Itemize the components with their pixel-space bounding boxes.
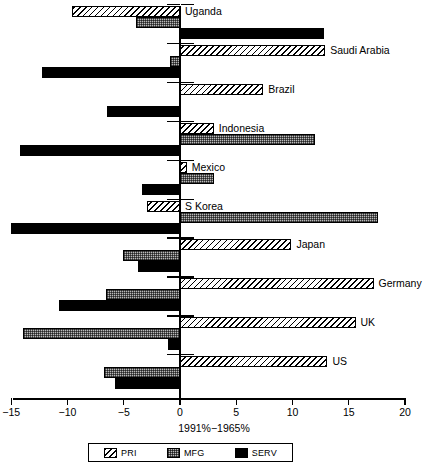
bar-pri-japan <box>180 239 291 250</box>
x-tick-label: −5 <box>104 406 144 418</box>
group-tick <box>181 43 194 44</box>
x-tick-label: 0 <box>160 406 200 418</box>
group-tick <box>167 43 180 44</box>
legend-swatch-serv-icon <box>235 448 248 458</box>
bar-mfg-us <box>104 367 181 378</box>
group-tick <box>181 82 194 83</box>
group-tick <box>167 237 180 238</box>
bar-pri-s-korea <box>147 201 180 212</box>
bar-pri-saudi-arabia <box>180 45 325 56</box>
legend-item-pri: PRI <box>104 448 137 458</box>
category-label-us: US <box>332 356 347 367</box>
chart-legend: PRI MFG SERV <box>88 443 293 462</box>
group-tick <box>167 199 180 200</box>
x-tick <box>67 398 68 405</box>
x-tick <box>348 398 349 405</box>
group-tick <box>167 160 180 161</box>
group-tick <box>167 276 180 277</box>
category-label-mexico: Mexico <box>192 162 225 173</box>
bar-serv-uk <box>168 339 180 350</box>
bar-mfg-mexico <box>180 173 214 184</box>
bar-mfg-saudi-arabia <box>170 56 180 67</box>
category-label-uk: UK <box>361 317 376 328</box>
bar-serv-mexico <box>142 184 180 195</box>
group-tick <box>181 276 194 277</box>
legend-label-serv: SERV <box>252 448 277 458</box>
group-tick <box>181 354 194 355</box>
group-tick <box>167 315 180 316</box>
group-tick <box>181 315 194 316</box>
category-label-indonesia: Indonesia <box>219 123 265 134</box>
bar-pri-uk <box>180 317 356 328</box>
category-label-germany: Germany <box>379 278 422 289</box>
category-label-japan: Japan <box>296 239 325 250</box>
bar-mfg-germany <box>106 289 180 300</box>
bar-serv-uganda <box>180 28 324 39</box>
category-label-uganda: Uganda <box>185 6 222 17</box>
bar-serv-japan <box>138 261 180 272</box>
bar-mfg-uk <box>23 328 181 339</box>
x-tick-label: 20 <box>385 406 425 418</box>
x-tick <box>236 398 237 405</box>
bar-pri-uganda <box>72 6 180 17</box>
legend-swatch-pri-icon <box>104 448 117 458</box>
x-tick-label: −15 <box>0 406 31 418</box>
horizontal-bar-chart: UgandaSaudi ArabiaBrazilIndonesiaMexicoS… <box>0 0 428 466</box>
bar-pri-mexico <box>180 162 187 173</box>
legend-label-pri: PRI <box>121 448 137 458</box>
category-label-s-korea: S Korea <box>185 201 223 212</box>
x-axis-label: 1991%−1965% <box>0 422 428 434</box>
x-axis-line <box>13 398 405 400</box>
category-label-brazil: Brazil <box>268 84 294 95</box>
x-tick-label: 10 <box>273 406 313 418</box>
legend-label-mfg: MFG <box>184 448 205 458</box>
bar-pri-indonesia <box>180 123 214 134</box>
group-tick <box>181 121 194 122</box>
bar-serv-s-korea <box>11 223 180 234</box>
x-tick <box>292 398 293 405</box>
bar-serv-indonesia <box>20 145 180 156</box>
bar-mfg-uganda <box>136 17 180 28</box>
plot-area: UgandaSaudi ArabiaBrazilIndonesiaMexicoS… <box>0 0 428 398</box>
bar-serv-saudi-arabia <box>42 67 180 78</box>
category-label-saudi-arabia: Saudi Arabia <box>330 45 390 56</box>
bar-mfg-s-korea <box>180 212 378 223</box>
x-tick-label: 5 <box>216 406 256 418</box>
bar-mfg-indonesia <box>180 134 315 145</box>
bar-serv-germany <box>59 300 181 311</box>
x-tick <box>11 398 12 405</box>
bar-serv-brazil <box>107 106 180 117</box>
group-tick <box>167 4 180 5</box>
group-tick <box>167 121 180 122</box>
legend-item-serv: SERV <box>235 448 277 458</box>
bar-serv-us <box>115 378 180 389</box>
bar-pri-brazil <box>180 84 263 95</box>
bar-pri-germany <box>180 278 374 289</box>
x-tick <box>404 398 405 405</box>
x-tick <box>179 398 180 405</box>
bar-mfg-japan <box>123 250 180 261</box>
x-tick <box>123 398 124 405</box>
legend-swatch-mfg-icon <box>167 448 180 458</box>
group-tick <box>181 237 194 238</box>
group-tick <box>167 354 180 355</box>
legend-item-mfg: MFG <box>167 448 205 458</box>
x-tick-label: −10 <box>48 406 88 418</box>
bar-pri-us <box>180 356 327 367</box>
x-tick-label: 15 <box>329 406 369 418</box>
group-tick <box>167 82 180 83</box>
